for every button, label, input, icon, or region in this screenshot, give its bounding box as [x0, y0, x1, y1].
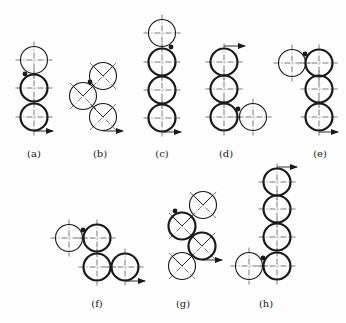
figure-label: (g): [176, 298, 190, 309]
radius-line: [103, 66, 113, 76]
radius-line: [203, 195, 213, 205]
start-point-dot: [236, 107, 241, 112]
radius-line: [83, 86, 93, 96]
figure-label: (f): [91, 298, 103, 309]
start-point-dot: [81, 228, 86, 233]
figure-b: (b): [70, 63, 124, 160]
start-point-dot: [303, 52, 308, 57]
radius-line: [73, 86, 83, 96]
figure-h: (h): [231, 164, 298, 310]
figure-c: (c): [144, 15, 182, 160]
rolling-circle-diagram-set: (a)(b)(c)(d)(e)(f)(g)(h): [0, 0, 346, 323]
figure-f: (f): [51, 220, 146, 310]
figure-label: (d): [219, 148, 233, 159]
radius-line: [182, 256, 192, 266]
figure-label: (e): [313, 148, 327, 159]
diagram-canvas: (a)(b)(c)(d)(e)(f)(g)(h): [0, 0, 346, 323]
start-point-dot: [173, 209, 178, 214]
start-point-dot: [261, 256, 266, 261]
radius-line: [182, 216, 192, 226]
radius-line: [93, 66, 103, 76]
radius-line: [193, 195, 203, 205]
figure-label: (h): [259, 298, 273, 309]
radius-line: [93, 107, 103, 117]
figure-label: (b): [93, 148, 107, 159]
figure-label: (a): [27, 148, 41, 159]
radius-line: [172, 216, 182, 226]
start-point-dot: [169, 45, 174, 50]
radius-line: [103, 107, 113, 117]
radius-line: [192, 236, 202, 246]
figure-label: (c): [155, 148, 169, 159]
figure-g: (g): [169, 192, 223, 310]
start-point-dot: [23, 72, 28, 77]
radius-line: [172, 256, 182, 266]
figure-a: (a): [16, 42, 54, 160]
radius-line: [202, 236, 212, 246]
figure-e: (e): [274, 45, 339, 160]
figure-d: (d): [206, 44, 272, 160]
start-point-dot: [88, 80, 93, 85]
